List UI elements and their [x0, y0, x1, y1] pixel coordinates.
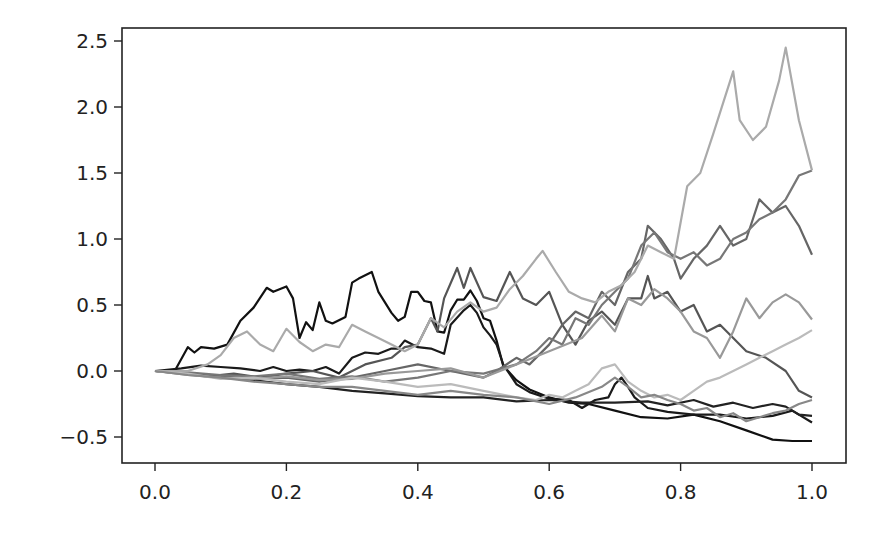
series-path-7	[155, 48, 812, 371]
x-tick-label: 0.6	[533, 480, 565, 504]
y-tick-label: 0.5	[76, 293, 108, 317]
y-tick-label: 2.5	[76, 29, 108, 53]
series-path-6	[155, 170, 812, 381]
series-path-2	[155, 305, 812, 423]
y-tick-label: 1.5	[76, 161, 108, 185]
series-path-5	[155, 199, 812, 381]
line-chart: 0.00.20.40.60.81.0 −0.50.00.51.01.52.02.…	[0, 0, 882, 533]
x-tick-label: 0.8	[665, 480, 697, 504]
y-tick-label: 1.0	[76, 227, 108, 251]
x-axis: 0.00.20.40.60.81.0	[139, 463, 828, 504]
x-tick-label: 1.0	[796, 480, 828, 504]
series-layer	[155, 48, 812, 441]
y-tick-label: 2.0	[76, 95, 108, 119]
y-axis: −0.50.00.51.01.52.02.5	[59, 29, 122, 449]
x-tick-label: 0.2	[270, 480, 302, 504]
y-tick-label: −0.5	[59, 425, 108, 449]
series-path-8	[155, 289, 812, 380]
series-path-9	[155, 330, 812, 400]
x-tick-label: 0.4	[402, 480, 434, 504]
y-tick-label: 0.0	[76, 359, 108, 383]
x-tick-label: 0.0	[139, 480, 171, 504]
